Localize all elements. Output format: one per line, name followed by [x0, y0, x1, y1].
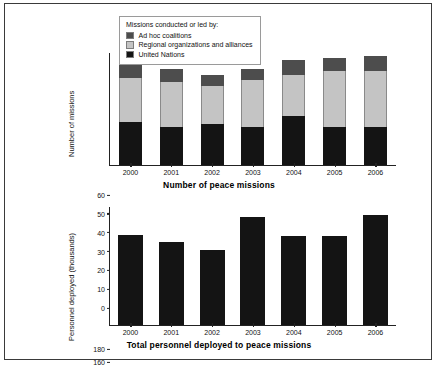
- plot-area-personnel: 2000200120022003200420052006 02040608010…: [109, 207, 396, 326]
- x-axis-label: 2000: [123, 169, 139, 176]
- stacked-bar: [282, 60, 305, 165]
- bar-slot: 2001: [159, 207, 184, 325]
- bar-segment-un: [282, 116, 305, 165]
- x-axis-label: 2000: [123, 329, 139, 336]
- x-axis-label: 2005: [327, 169, 343, 176]
- legend-title: Missions conducted or led by:: [126, 21, 253, 29]
- stacked-bar: [201, 75, 224, 165]
- bar-slot: 2004: [282, 53, 305, 165]
- bar-segment-regional: [282, 75, 305, 116]
- bar-segment-regional: [160, 82, 183, 127]
- figure-frame: Missions conducted or led by: Ad hoc coa…: [4, 3, 432, 360]
- bar-segment-adhoc: [160, 69, 183, 82]
- legend-item-regional: Regional organizations and alliances: [126, 41, 253, 49]
- bar: [363, 215, 388, 325]
- bar-slot: 2001: [160, 53, 183, 165]
- bar-segment-regional: [323, 71, 346, 128]
- legend-label-adhoc: Ad hoc coalitions: [139, 32, 192, 40]
- x-axis-label: 2003: [245, 329, 261, 336]
- bar: [159, 242, 184, 325]
- y-axis-title-missions: Number of missions: [67, 91, 76, 157]
- bar: [240, 217, 265, 325]
- bar-slot: 2000: [119, 53, 142, 165]
- x-axis-label: 2005: [327, 329, 343, 336]
- legend-swatch-regional: [126, 41, 134, 49]
- y-axis-title-personnel: Personnel deployed (thousands): [67, 233, 76, 341]
- x-axis-label: 2004: [286, 329, 302, 336]
- x-axis-label: 2003: [245, 169, 261, 176]
- stacked-bar: [160, 69, 183, 165]
- stacked-bar: [323, 58, 346, 165]
- bar: [322, 236, 347, 325]
- bar-slot: 2006: [364, 53, 387, 165]
- legend-swatch-adhoc: [126, 32, 134, 40]
- chart-caption-personnel: Total personnel deployed to peace missio…: [5, 340, 433, 350]
- stacked-bar: [241, 69, 264, 165]
- bar-slot: 2005: [322, 207, 347, 325]
- chart-panel-missions: Missions conducted or led by: Ad hoc coa…: [5, 4, 433, 198]
- bar-segment-adhoc: [282, 60, 305, 75]
- bar-segment-un: [241, 127, 264, 165]
- x-axis-label: 2001: [163, 329, 179, 336]
- bar-segment-regional: [241, 80, 264, 127]
- bar-group-missions: 2000200120022003200420052006: [110, 53, 396, 165]
- bar-slot: 2006: [363, 207, 388, 325]
- bar-slot: 2002: [200, 207, 225, 325]
- bar-segment-adhoc: [201, 75, 224, 86]
- bar-slot: 2002: [201, 53, 224, 165]
- bar-slot: 2003: [240, 207, 265, 325]
- legend-label-regional: Regional organizations and alliances: [139, 41, 253, 49]
- bar-segment-adhoc: [119, 65, 142, 78]
- bar-segment-un: [364, 127, 387, 165]
- bar-segment-un: [119, 122, 142, 165]
- chart-caption-missions: Number of peace missions: [5, 180, 433, 190]
- bar-segment-adhoc: [364, 56, 387, 71]
- bar-group-personnel: 2000200120022003200420052006: [110, 207, 396, 325]
- stacked-bar: [364, 56, 387, 165]
- bar-slot: 2000: [118, 207, 143, 325]
- bar-segment-un: [201, 124, 224, 165]
- bar-slot: 2004: [281, 207, 306, 325]
- bar: [200, 250, 225, 325]
- bar-segment-un: [160, 127, 183, 165]
- bar-slot: 2003: [241, 53, 264, 165]
- x-axis-label: 2002: [204, 329, 220, 336]
- y-axis-tick: 160: [93, 359, 110, 366]
- x-axis-label: 2002: [204, 169, 220, 176]
- bar-slot: 2005: [323, 53, 346, 165]
- bar-segment-un: [323, 127, 346, 165]
- x-axis-label: 2006: [368, 329, 384, 336]
- bar-segment-regional: [364, 71, 387, 128]
- bar-segment-regional: [119, 78, 142, 121]
- bar-segment-regional: [201, 86, 224, 124]
- x-axis-label: 2006: [368, 169, 384, 176]
- bar-segment-adhoc: [323, 58, 346, 71]
- plot-area-missions: 2000200120022003200420052006 01020304050…: [109, 53, 396, 166]
- bar: [118, 235, 143, 325]
- bar: [281, 236, 306, 325]
- bar-segment-adhoc: [241, 69, 264, 80]
- legend-item-adhoc: Ad hoc coalitions: [126, 32, 253, 40]
- x-axis-label: 2001: [163, 169, 179, 176]
- stacked-bar: [119, 65, 142, 165]
- x-axis-label: 2004: [286, 169, 302, 176]
- chart-panel-personnel: Personnel deployed (thousands) 200020012…: [5, 198, 433, 361]
